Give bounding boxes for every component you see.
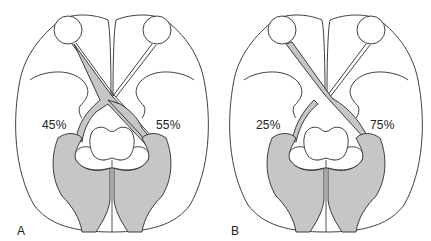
right-hemisphere-percent: 55%: [156, 118, 181, 132]
pons: [90, 127, 134, 160]
panel-a: 45% 55% A: [0, 0, 215, 241]
right-eye: [143, 16, 171, 44]
left-eye: [54, 16, 82, 44]
right-eye: [357, 16, 385, 44]
brain-diagram-a: [0, 0, 215, 241]
panel-b: 25% 75% B: [214, 0, 429, 241]
right-hemisphere-percent: 75%: [370, 118, 395, 132]
left-hemisphere-percent: 45%: [42, 118, 67, 132]
left-hemisphere-percent: 25%: [256, 118, 281, 132]
panel-label: A: [17, 224, 25, 238]
pons: [304, 127, 348, 160]
panel-label: B: [231, 224, 239, 238]
left-eye: [268, 16, 296, 44]
brain-diagram-b: [214, 0, 429, 241]
